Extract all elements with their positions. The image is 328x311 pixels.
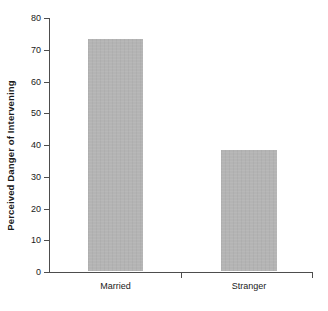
y-tick-label: 30 [31,172,41,182]
x-tick-label: Stranger [232,281,267,291]
y-tick-mark [44,272,49,273]
y-tick-label: 80 [31,13,41,23]
y-tick-mark [44,50,49,51]
y-axis-line [49,18,50,273]
y-tick-mark [44,177,49,178]
y-tick-mark [44,209,49,210]
y-tick-label: 60 [31,77,41,87]
y-tick-label: 70 [31,45,41,55]
y-tick-label: 10 [31,235,41,245]
bar-chart-figure: Perceived Danger of Intervening 01020304… [0,0,328,311]
x-tick-mark [181,273,182,278]
y-tick-mark [44,240,49,241]
y-tick-mark [44,18,49,19]
y-tick-mark [44,82,49,83]
y-tick-mark [44,145,49,146]
bar [221,150,277,271]
x-tick-label: Married [100,281,131,291]
bar [88,39,143,271]
y-tick-mark [44,113,49,114]
plot-area: 01020304050607080 MarriedStranger [49,18,312,272]
y-tick-label: 50 [31,108,41,118]
y-axis-title: Perceived Danger of Intervening [0,0,20,311]
x-tick-mark [312,273,313,278]
y-tick-label: 0 [36,267,41,277]
y-tick-label: 40 [31,140,41,150]
y-tick-label: 20 [31,204,41,214]
